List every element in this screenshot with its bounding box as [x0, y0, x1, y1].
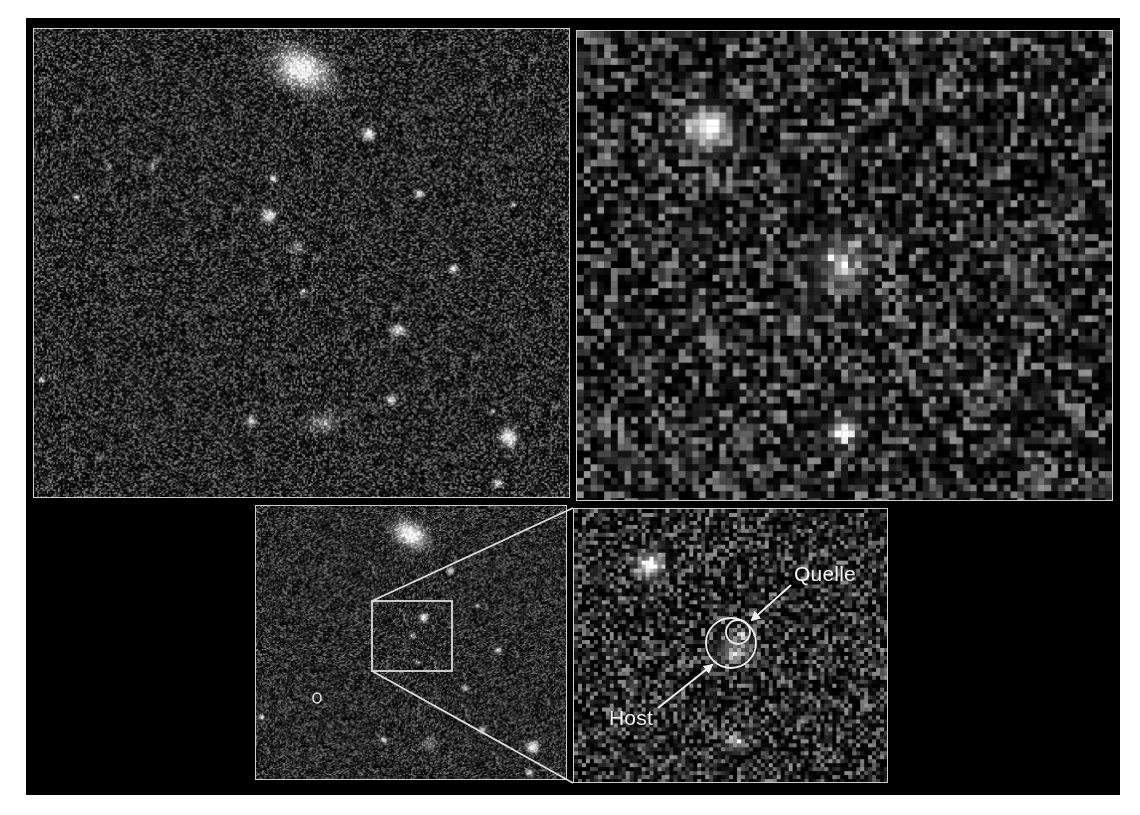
zoom-field-panel	[576, 30, 1113, 501]
quelle-label: Quelle	[794, 562, 856, 586]
annotated-zoom-panel	[573, 508, 888, 783]
overview-inset-image	[256, 506, 566, 779]
overview-inset-panel	[255, 505, 567, 780]
wide-field-image	[34, 29, 569, 497]
host-label: Host	[609, 706, 653, 730]
annotated-zoom-image	[574, 509, 887, 782]
zoom-field-image	[577, 31, 1112, 500]
wide-field-panel	[33, 28, 570, 498]
